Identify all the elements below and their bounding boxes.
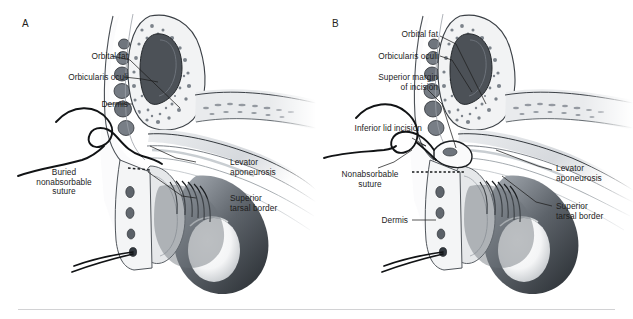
- orbital-fat-pocket: [128, 15, 205, 130]
- panel-a: A: [0, 0, 316, 300]
- panel-a-illustration: [0, 0, 316, 300]
- figure-container: A: [0, 0, 633, 319]
- panel-b-illustration: [316, 0, 633, 300]
- figure-divider: [18, 309, 615, 310]
- panel-b: B: [316, 0, 633, 300]
- orbital-fat-pocket: [438, 15, 515, 130]
